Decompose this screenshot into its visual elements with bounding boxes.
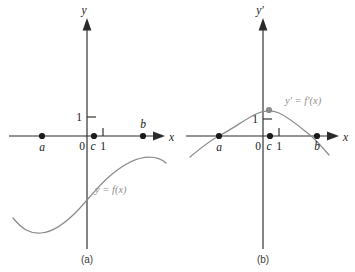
panel-a-label-b: b: [140, 118, 146, 130]
panel-b-x-tick-label: 1: [276, 140, 282, 152]
panel-b-y-tick-label: 1: [252, 113, 258, 125]
panel-b-curve-label: y′ = f′(x): [284, 95, 322, 107]
panel-a-caption: (a): [81, 254, 93, 265]
panel-b-x-axis-label: x: [342, 131, 349, 143]
panel-b-label-c: c: [266, 140, 271, 152]
panel-a-y-tick-label: 1: [76, 111, 82, 123]
panel-a-y-axis-label: y: [80, 4, 87, 17]
panel-a-x-tick-label: 1: [100, 140, 106, 152]
panel-a-point-b: [140, 133, 146, 139]
figure-root: y x 1 0 1 a c b y = f(x) (a): [0, 0, 355, 272]
panel-a: y x 1 0 1 a c b y = f(x) (a): [0, 0, 178, 272]
panel-a-point-c: [91, 133, 97, 139]
panel-a-label-c: c: [90, 140, 95, 152]
panel-b-origin-label: 0: [255, 140, 261, 152]
panel-a-point-a: [39, 133, 45, 139]
panel-a-x-axis-label: x: [168, 131, 175, 143]
panel-b-point-c: [267, 133, 273, 139]
panel-b: y′ x 1 0 1 a c b y′ = f′(x) (b): [178, 0, 355, 272]
panel-b-y-axis: [259, 18, 268, 249]
panel-a-label-a: a: [39, 141, 45, 153]
panel-a-curve: [13, 157, 166, 233]
panel-a-origin-label: 0: [79, 140, 85, 152]
panel-b-y-axis-label: y′: [255, 4, 264, 17]
panel-b-point-a: [216, 133, 222, 139]
panel-b-vertex-point: [266, 107, 272, 113]
panel-b-point-b: [314, 133, 320, 139]
panel-b-caption: (b): [257, 254, 269, 265]
panel-a-y-axis: [83, 18, 92, 249]
panel-b-label-a: a: [216, 141, 222, 153]
panel-b-label-b: b: [314, 140, 320, 152]
panel-a-curve-label: y = f(x): [94, 184, 127, 196]
